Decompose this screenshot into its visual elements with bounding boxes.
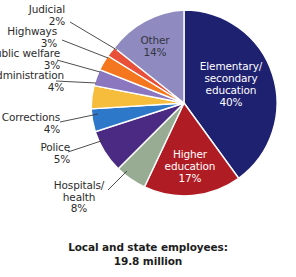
slice-label-higher-line2: education <box>165 160 216 172</box>
callout-label-highways: Highways 3% <box>7 26 57 49</box>
callout-label-public-welfare-text: Public welfare <box>0 47 60 59</box>
slice-label-elementary-line2: secondary <box>204 72 257 84</box>
callout-label-police-text: Police <box>40 141 70 153</box>
chart-caption: Local and state employees: 19.8 million <box>0 240 296 268</box>
callout-label-administration-pct: 4% <box>0 82 64 94</box>
slice-label-elementary-line3: education <box>206 84 257 96</box>
callout-label-highways-text: Highways <box>7 25 57 37</box>
caption-line-2: 19.8 million <box>0 254 296 268</box>
leader-line-hospitals-health <box>108 171 127 190</box>
callout-label-hospitals-health: Hospitals/ health 8% <box>48 180 110 215</box>
callout-label-administration: Administration 4% <box>0 70 64 93</box>
slice-label-elementary-secondary-education: Elementary/ secondary education 40% <box>186 60 276 108</box>
callout-label-corrections-text: Corrections <box>2 111 60 123</box>
slice-label-higher-line1: Higher <box>173 148 207 160</box>
leader-line-highways <box>62 40 108 58</box>
callout-label-administration-text: Administration <box>0 69 64 81</box>
slice-label-higher-education: Higher education 17% <box>152 148 228 184</box>
slice-label-higher-pct: 17% <box>179 172 202 184</box>
callout-label-public-welfare: Public welfare 3% <box>0 48 60 71</box>
slice-label-other: Other 14% <box>128 34 182 58</box>
callout-label-judicial: Judicial 2% <box>29 4 65 27</box>
leader-line-police <box>68 140 104 152</box>
callout-label-hospitals-health-pct: 8% <box>48 203 110 215</box>
callout-label-police-pct: 5% <box>40 154 70 166</box>
slice-label-other-pct: 14% <box>144 46 167 58</box>
callout-label-police: Police 5% <box>40 142 70 165</box>
caption-line-1: Local and state employees: <box>68 241 228 253</box>
slice-label-other-line1: Other <box>140 34 169 46</box>
callout-label-corrections: Corrections 4% <box>2 112 60 135</box>
callout-label-hospitals-health-text: Hospitals/ <box>54 179 104 191</box>
pie-chart-figure: Judicial 2% Highways 3% Public welfare 3… <box>0 0 296 277</box>
slice-label-elementary-line1: Elementary/ <box>200 60 262 72</box>
slice-label-elementary-pct: 40% <box>220 96 243 108</box>
callout-label-corrections-pct: 4% <box>2 124 60 136</box>
callout-label-judicial-text: Judicial <box>29 3 65 15</box>
